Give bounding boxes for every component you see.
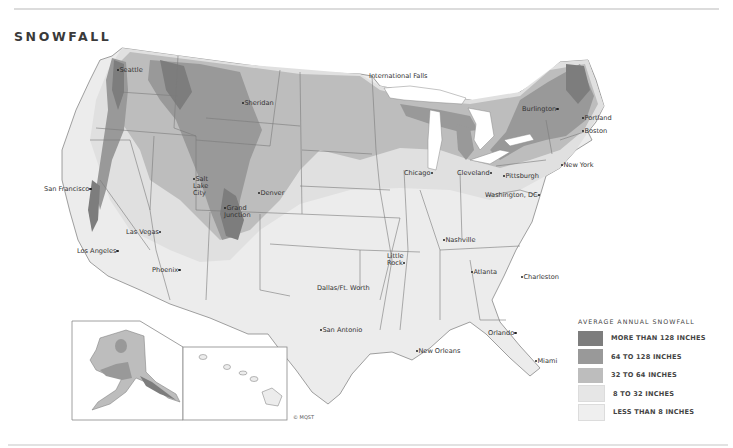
city-orlando: Orlando (488, 330, 517, 337)
legend-label: 32 TO 64 INCHES (611, 371, 677, 379)
city-chicago: Chicago (404, 170, 433, 177)
legend-swatch (578, 331, 603, 346)
city-salt-lake-city: Salt Lake City (193, 176, 223, 197)
city-marker-icon (403, 262, 405, 264)
city-seattle: Seattle (117, 67, 143, 74)
city-pittsburgh: Pittsburgh (503, 173, 539, 180)
inset-frame-hawaii (183, 347, 287, 420)
city-portland: Portland (582, 115, 612, 122)
city-international-falls: International Falls (369, 73, 428, 80)
city-sheridan: Sheridan (242, 100, 274, 107)
city-little-rock: Little Rock (387, 253, 409, 267)
copyright-notice: © MQST (293, 414, 314, 420)
bottom-rule (8, 444, 728, 446)
city-marker-icon (514, 332, 516, 334)
city-marker-icon (556, 108, 558, 110)
legend-label: MORE THAN 128 INCHES (611, 334, 706, 342)
city-atlanta: Atlanta (471, 269, 497, 276)
city-cleveland: Cleveland (457, 170, 492, 177)
legend-label: 64 TO 128 INCHES (611, 353, 682, 361)
legend-item-more-than-128: MORE THAN 128 INCHES (578, 329, 728, 348)
city-burlington: Burlington (522, 106, 559, 113)
city-new-york: New York (561, 162, 594, 169)
city-marker-icon (178, 269, 180, 271)
city-marker-icon (116, 250, 118, 252)
city-phoenix: Phoenix (152, 267, 181, 274)
alaska-zone-64-128-a (115, 339, 127, 353)
legend-label: 8 TO 32 INCHES (613, 390, 674, 398)
city-las-vegas: Las Vegas (126, 229, 161, 236)
city-marker-icon (159, 231, 161, 233)
city-charleston: Charleston (521, 274, 559, 281)
city-marker-icon (490, 172, 492, 174)
city-washington-dc: Washington, DC (485, 192, 540, 199)
legend-item-8-to-32: 8 TO 32 INCHES (578, 385, 728, 404)
legend-swatch (578, 368, 603, 383)
city-marker-icon (89, 188, 91, 190)
legend-item-64-to-128: 64 TO 128 INCHES (578, 348, 728, 367)
legend-title: AVERAGE ANNUAL SNOWFALL (578, 318, 728, 325)
city-denver: Denver (258, 190, 284, 197)
map-legend: AVERAGE ANNUAL SNOWFALL MORE THAN 128 IN… (578, 318, 728, 422)
legend-item-32-to-64: 32 TO 64 INCHES (578, 366, 728, 385)
city-new-orleans: New Orleans (416, 348, 460, 355)
city-boston: Boston (582, 128, 607, 135)
city-los-angeles: Los Angeles (77, 248, 119, 255)
city-grand-junction: Grand Junction (224, 205, 254, 219)
legend-swatch (578, 404, 605, 421)
city-nashville: Nashville (443, 237, 475, 244)
city-san-francisco: San Francisco (44, 186, 92, 193)
city-san-antonio: San Antonio (320, 327, 362, 334)
city-dallas-ft-worth: Dallas/Ft. Worth (317, 285, 370, 292)
legend-label: LESS THAN 8 INCHES (613, 408, 694, 416)
legend-swatch (578, 385, 605, 402)
city-miami: Miami (535, 358, 557, 365)
legend-item-less-than-8: LESS THAN 8 INCHES (578, 403, 728, 422)
legend-swatch (578, 349, 603, 364)
